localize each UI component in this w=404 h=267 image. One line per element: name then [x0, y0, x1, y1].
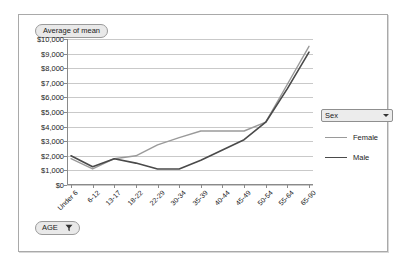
- filter-funnel-icon[interactable]: [65, 224, 73, 232]
- y-tick-label: $10,000: [37, 35, 64, 44]
- y-tick-label: $8,000: [41, 64, 64, 73]
- legend-item-female[interactable]: Female: [321, 133, 395, 142]
- x-axis-labels: Under 66-1213-1718-2222-2930-3435-3940-4…: [67, 185, 313, 225]
- x-tick-label: 22-29: [148, 189, 166, 207]
- y-tick-label: $9,000: [41, 49, 64, 58]
- x-tick-label: 30-34: [170, 189, 188, 207]
- sex-field-label: Sex: [325, 111, 338, 120]
- x-tick-label: 50-54: [256, 189, 274, 207]
- x-tick-label: 18-22: [126, 189, 144, 207]
- y-tick-label: $4,000: [41, 122, 64, 131]
- x-tick-label: 55-64: [278, 189, 296, 207]
- y-tick-label: $5,000: [41, 108, 64, 117]
- x-tick-label: 45-49: [234, 189, 252, 207]
- series-line-male: [71, 52, 309, 169]
- x-tick-label: 13-17: [105, 189, 123, 207]
- legend-item-male[interactable]: Male: [321, 153, 395, 162]
- pivot-age-field-button[interactable]: AGE: [35, 221, 80, 235]
- series-lines: [67, 39, 313, 185]
- legend-entries: FemaleMale: [321, 133, 395, 162]
- legend-swatch: [325, 157, 347, 158]
- legend-label: Female: [353, 133, 378, 142]
- legend-swatch: [325, 137, 347, 138]
- x-tick-label: 6-12: [86, 189, 101, 204]
- x-tick-label: Under 6: [56, 189, 79, 212]
- y-tick-label: $0: [56, 181, 64, 190]
- chevron-down-icon[interactable]: [383, 114, 389, 117]
- age-button-label: AGE: [42, 224, 58, 232]
- x-tick-label: 35-39: [191, 189, 209, 207]
- legend-label: Male: [353, 153, 369, 162]
- y-tick-label: $7,000: [41, 78, 64, 87]
- series-line-female: [71, 46, 309, 169]
- y-tick-label: $3,000: [41, 137, 64, 146]
- x-tick-label: 40-44: [213, 189, 231, 207]
- y-tick-label: $1,000: [41, 166, 64, 175]
- y-tick-label: $2,000: [41, 151, 64, 160]
- x-tick-label: 65-90: [299, 189, 317, 207]
- chart-frame: Average of mean $0$1,000$2,000$3,000$4,0…: [18, 14, 388, 252]
- sex-field-dropdown[interactable]: Sex: [321, 109, 393, 122]
- y-tick-label: $6,000: [41, 93, 64, 102]
- plot-area: $0$1,000$2,000$3,000$4,000$5,000$6,000$7…: [67, 39, 313, 185]
- legend: Sex FemaleMale: [321, 109, 395, 162]
